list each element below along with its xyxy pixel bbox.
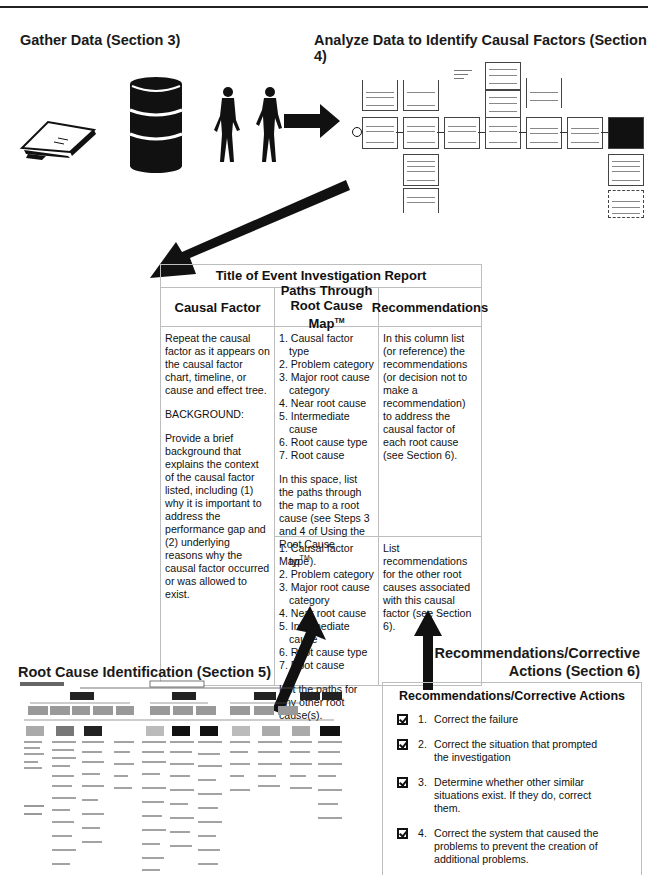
corrective-actions-title: Recommendations/Corrective Actions	[383, 690, 641, 703]
path-item: 7. Root cause	[279, 449, 374, 462]
checkbox-checked-icon[interactable]	[397, 739, 408, 750]
trademark-mark: TM	[334, 317, 344, 324]
path-item: 5. Intermediate cause	[279, 410, 374, 436]
path-item: 3. Major root cause category	[279, 371, 374, 397]
checkbox-checked-icon[interactable]	[397, 777, 408, 788]
path-item: 6. Root cause type	[279, 436, 374, 449]
page-top-rule	[0, 0, 648, 8]
item-text: Correct the situation that prompted the …	[434, 738, 604, 764]
section-title-recommendations: Recommendations/Corrective Actions (Sect…	[435, 644, 640, 680]
section-title-root-cause: Root Cause Identification (Section 5)	[18, 664, 271, 680]
corrective-action-item: 4. Correct the system that caused the pr…	[397, 827, 641, 866]
causal-factor-chart-thumbnail	[340, 70, 648, 220]
item-text: Correct the failure	[434, 713, 604, 726]
root-cause-map-thumbnail	[0, 680, 360, 874]
checkbox-checked-icon[interactable]	[397, 714, 408, 725]
item-number: 4.	[418, 827, 434, 866]
report-header-row: Causal Factor Paths Through Root Cause M…	[161, 288, 481, 327]
header-recommendations: Recommendations	[379, 288, 481, 326]
item-number: 3.	[418, 776, 434, 815]
background-instructions: Provide a brief background that explains…	[165, 432, 270, 601]
path-item: 1. Causal factor type	[279, 332, 374, 358]
header-paths: Paths Through Root Cause MapTM	[275, 288, 379, 326]
item-number: 2.	[418, 738, 434, 764]
causal-factor-instructions: Repeat the causal factor as it appears o…	[165, 332, 270, 397]
paths-cell-primary: 1. Causal factor type 2. Problem categor…	[275, 327, 378, 537]
item-number: 1.	[418, 713, 434, 726]
people-icon	[212, 86, 288, 166]
causal-factor-cell: Repeat the causal factor as it appears o…	[161, 327, 275, 685]
corrective-actions-box: Recommendations/Corrective Actions 1. Co…	[382, 682, 642, 875]
path-item: 4. Near root cause	[279, 397, 374, 410]
header-paths-line1: Paths Through	[281, 283, 373, 298]
path-item: 3. Major root cause category	[279, 581, 374, 607]
item-text: Correct the system that caused the probl…	[434, 827, 604, 866]
recommendations-cell-primary: In this column list (or reference) the r…	[379, 327, 481, 537]
section-title-recommendations-line1: Recommendations/Corrective	[435, 645, 640, 661]
paths-list-primary: 1. Causal factor type 2. Problem categor…	[279, 332, 374, 462]
documents-icon	[18, 108, 98, 160]
section-title-gather: Gather Data (Section 3)	[20, 32, 180, 48]
corrective-action-item: 3. Determine whether other similar situa…	[397, 776, 641, 815]
path-item: 2. Problem category	[279, 568, 374, 581]
header-causal-factor: Causal Factor	[161, 288, 275, 326]
path-item: 2. Problem category	[279, 358, 374, 371]
section-title-recommendations-line2: Actions (Section 6)	[509, 663, 640, 679]
corrective-action-item: 1. Correct the failure	[397, 713, 641, 726]
corrective-action-item: 2. Correct the situation that prompted t…	[397, 738, 641, 764]
background-label: BACKGROUND:	[165, 408, 270, 421]
checkbox-checked-icon[interactable]	[397, 828, 408, 839]
barrel-icon	[128, 76, 184, 174]
item-text: Determine whether other similar situatio…	[434, 776, 604, 815]
section-title-analyze: Analyze Data to Identify Causal Factors …	[314, 32, 648, 64]
start-node-icon	[352, 127, 362, 137]
arrow-right-icon	[284, 104, 340, 138]
path-item: 1. Causal factor type	[279, 542, 374, 568]
